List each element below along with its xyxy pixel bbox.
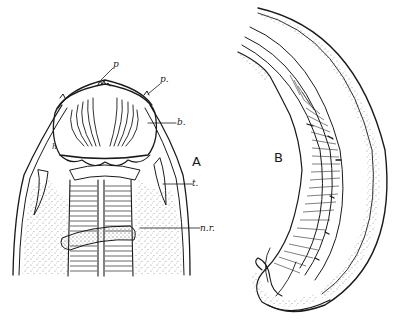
label-h: h [52, 143, 57, 151]
panel-a-drawing [13, 68, 200, 276]
label-t: t. [192, 179, 198, 188]
panel-label-a: A [192, 155, 201, 168]
label-b: b. [177, 118, 186, 127]
label-p-outer: p. [160, 75, 169, 84]
panel-label-b: B [274, 151, 283, 164]
panel-b-drawing [238, 8, 387, 312]
label-nr: n.r. [200, 224, 215, 233]
label-p-inner: p [113, 60, 119, 69]
figure: p p. b. t. n.r. h A B [0, 0, 408, 324]
figure-drawing [0, 0, 408, 324]
